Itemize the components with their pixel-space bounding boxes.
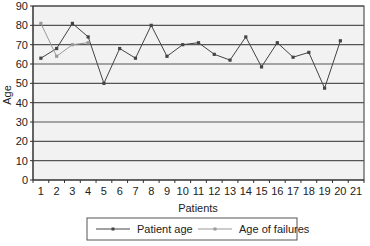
data-point (55, 55, 58, 58)
y-tick-label: 90 (16, 0, 28, 12)
data-point (307, 51, 310, 54)
data-point (197, 41, 200, 44)
data-point (87, 41, 90, 44)
x-tick-label: 4 (85, 185, 91, 197)
data-point (323, 87, 326, 90)
x-tick-label: 21 (350, 185, 362, 197)
data-point (102, 82, 105, 85)
x-tick-label: 20 (334, 185, 346, 197)
x-tick-label: 10 (177, 185, 189, 197)
data-point (213, 53, 216, 56)
x-tick-label: 7 (132, 185, 138, 197)
x-tick-label: 2 (54, 185, 60, 197)
data-point (71, 22, 74, 25)
x-tick-label: 1 (38, 185, 44, 197)
data-point (291, 56, 294, 59)
data-point (339, 39, 342, 42)
data-point (55, 47, 58, 50)
x-tick-label: 17 (287, 185, 299, 197)
data-point (228, 59, 231, 62)
x-tick-label: 9 (164, 185, 170, 197)
y-tick-label: 50 (16, 77, 28, 89)
x-tick-label: 16 (271, 185, 283, 197)
data-point (39, 57, 42, 60)
data-point (276, 41, 279, 44)
y-tick-label: 20 (16, 135, 28, 147)
legend-label: Age of failures (239, 223, 310, 235)
legend-label: Patient age (137, 223, 193, 235)
x-tick-label: 18 (303, 185, 315, 197)
x-tick-label: 8 (148, 185, 154, 197)
data-point (71, 43, 74, 46)
y-tick-label: 60 (16, 58, 28, 70)
y-tick-label: 70 (16, 39, 28, 51)
x-tick-label: 11 (193, 185, 204, 197)
x-axis: 123456789101112131415161718192021 (33, 180, 364, 197)
x-tick-label: 15 (255, 185, 267, 197)
y-tick-label: 0 (22, 174, 28, 186)
data-point (260, 65, 263, 68)
data-point (244, 35, 247, 38)
y-tick-label: 80 (16, 19, 28, 31)
x-tick-label: 3 (69, 185, 75, 197)
legend: Patient ageAge of failures (87, 218, 310, 240)
data-point (39, 22, 42, 25)
data-point (118, 47, 121, 50)
x-tick-label: 19 (318, 185, 330, 197)
y-axis-title: Age (1, 85, 13, 105)
data-point (181, 43, 184, 46)
y-axis: 0102030405060708090 (16, 0, 33, 186)
x-tick-label: 12 (208, 185, 220, 197)
y-tick-label: 40 (16, 97, 28, 109)
y-tick-label: 10 (16, 155, 28, 167)
x-tick-label: 13 (224, 185, 236, 197)
data-point (165, 55, 168, 58)
x-tick-label: 5 (101, 185, 107, 197)
data-point (150, 24, 153, 27)
x-tick-label: 6 (117, 185, 123, 197)
data-point (134, 57, 137, 60)
y-tick-label: 30 (16, 116, 28, 128)
data-point (87, 35, 90, 38)
line-chart: 0102030405060708090 12345678910111213141… (0, 0, 370, 246)
x-axis-title: Patients (178, 202, 218, 214)
x-tick-label: 14 (240, 185, 252, 197)
